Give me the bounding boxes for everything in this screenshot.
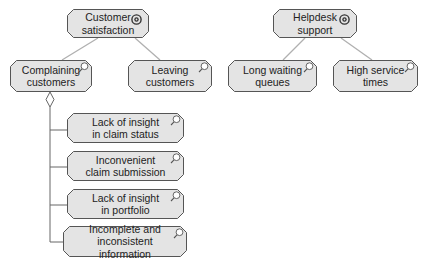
node-customer-satisfaction[interactable]: Customer satisfaction [67, 9, 149, 38]
node-inconvenient-claim-submission[interactable]: Inconvenient claim submission [67, 151, 184, 181]
magnifier-icon [170, 153, 181, 164]
link-customer-satisfaction-to-complaining-customers [62, 38, 98, 60]
node-complaining-customers[interactable]: Complaining customers [10, 60, 92, 92]
magnifier-icon [170, 115, 181, 126]
magnifier-icon [404, 62, 415, 73]
node-incomplete-inconsistent-information[interactable]: Incomplete and inconsistent information [63, 226, 187, 257]
node-long-waiting-queues[interactable]: Long waiting queues [228, 60, 317, 92]
magnifier-icon [198, 62, 209, 73]
node-high-service-times[interactable]: High service times [333, 60, 418, 92]
node-leaving-customers[interactable]: Leaving customers [128, 60, 212, 92]
magnifier-icon [303, 62, 314, 73]
node-lack-insight-portfolio[interactable]: Lack of insight in portfolio [67, 189, 184, 219]
node-label: Incomplete and inconsistent information [63, 226, 187, 257]
link-helpdesk-support-to-high-service-times [341, 38, 372, 60]
link-helpdesk-support-to-long-waiting-queues [283, 38, 305, 60]
goal-icon [339, 14, 350, 25]
link-customer-satisfaction-to-leaving-customers [135, 38, 160, 60]
magnifier-icon [170, 191, 181, 202]
aggregation-diamond-icon [46, 92, 54, 107]
magnifier-icon [173, 228, 184, 239]
node-label: Lack of insight in portfolio [67, 189, 184, 219]
goal-icon [131, 14, 142, 25]
node-label: Inconvenient claim submission [67, 151, 184, 181]
magnifier-icon [78, 62, 89, 73]
node-lack-insight-claim-status[interactable]: Lack of insight in claim status [67, 113, 184, 143]
node-helpdesk-support[interactable]: Helpdesk support [273, 9, 357, 38]
node-label: Lack of insight in claim status [67, 113, 184, 143]
